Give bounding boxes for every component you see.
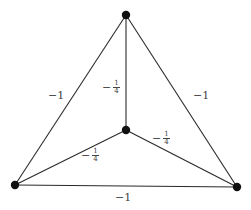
label-value: 1 (124, 191, 131, 204)
minus-sign: − (102, 82, 111, 93)
minus-sign: − (152, 133, 161, 144)
node-bottom-left (11, 181, 19, 189)
edge-center-bottom-right (126, 130, 237, 187)
denominator: 4 (92, 156, 98, 163)
denominator: 4 (113, 88, 119, 95)
node-top (122, 11, 130, 19)
edge-label-center-bottom-right: − 1 4 (152, 131, 170, 146)
edge-top-bottom-left (15, 15, 126, 185)
fraction: 1 4 (113, 80, 119, 95)
minus-sign: − (48, 89, 57, 102)
graph-canvas (0, 0, 251, 210)
fraction: 1 4 (163, 131, 169, 146)
label-value: 1 (202, 89, 209, 102)
minus-sign: − (81, 150, 90, 161)
label-value: 1 (57, 89, 64, 102)
fraction: 1 4 (92, 148, 98, 163)
edge-label-bottom: −1 (115, 192, 131, 203)
edge-label-top-bottom-left: −1 (48, 90, 64, 101)
edge-label-top-center: − 1 4 (102, 80, 120, 95)
edge-top-bottom-right (126, 15, 237, 187)
denominator: 4 (163, 139, 169, 146)
minus-sign: − (193, 89, 202, 102)
edge-label-center-bottom-left: − 1 4 (81, 148, 99, 163)
node-center (122, 126, 130, 134)
edge-bottom-left-bottom-right (15, 185, 237, 187)
edge-label-top-bottom-right: −1 (193, 90, 209, 101)
edge-center-bottom-left (15, 130, 126, 185)
node-bottom-right (233, 183, 241, 191)
minus-sign: − (115, 191, 124, 204)
